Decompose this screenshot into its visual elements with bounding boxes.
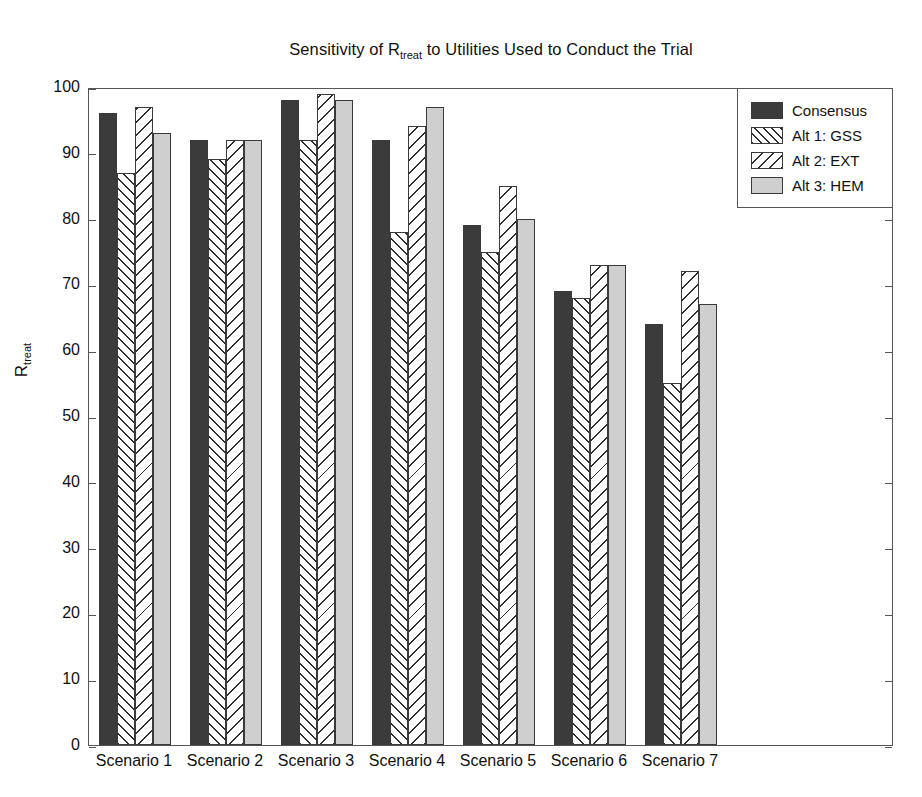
legend-item: Consensus	[738, 98, 892, 123]
bar-group	[463, 89, 535, 745]
legend-swatch	[751, 127, 783, 144]
bar	[281, 100, 299, 745]
bar	[299, 140, 317, 745]
x-tick-label: Scenario 5	[460, 752, 537, 770]
x-tick-label: Scenario 2	[187, 752, 264, 770]
y-tick-label: 30	[62, 539, 80, 557]
y-tick-label: 100	[53, 78, 80, 96]
legend-swatch	[751, 102, 783, 119]
y-tick-label: 50	[62, 407, 80, 425]
bar-group	[281, 89, 353, 745]
y-tick-label: 80	[62, 210, 80, 228]
bar	[590, 265, 608, 745]
bar	[572, 298, 590, 745]
bar	[372, 140, 390, 745]
legend-label: Alt 3: HEM	[792, 177, 864, 194]
chart-title: Sensitivity of Rtreat to Utilities Used …	[88, 40, 894, 59]
bar	[645, 324, 663, 745]
chart-title-part2: to Utilities Used to Conduct the Trial	[422, 40, 693, 58]
y-tick-label: 60	[62, 341, 80, 359]
y-tick-label: 0	[71, 736, 80, 754]
bar-group	[99, 89, 171, 745]
bar-group	[554, 89, 626, 745]
bar	[190, 140, 208, 745]
legend-label: Alt 1: GSS	[792, 127, 862, 144]
bar	[244, 140, 262, 745]
y-tick-label: 70	[62, 275, 80, 293]
bar	[663, 383, 681, 745]
y-axis-label-main: R	[12, 365, 31, 377]
y-tick-label: 20	[62, 604, 80, 622]
bar	[481, 252, 499, 746]
y-axis-label: Rtreat	[12, 300, 32, 420]
bar	[226, 140, 244, 745]
y-tick-mark-right	[885, 747, 892, 748]
bar	[99, 113, 117, 745]
legend-swatch	[751, 152, 783, 169]
bar	[135, 107, 153, 745]
bar	[426, 107, 444, 745]
bar	[499, 186, 517, 745]
bar-group	[372, 89, 444, 745]
y-tick-label: 10	[62, 670, 80, 688]
legend-item: Alt 1: GSS	[738, 123, 892, 148]
x-tick-label: Scenario 7	[642, 752, 719, 770]
x-tick-label: Scenario 3	[278, 752, 355, 770]
bar	[554, 291, 572, 745]
x-tick-label: Scenario 4	[369, 752, 446, 770]
x-tick-label: Scenario 1	[96, 752, 173, 770]
bar	[517, 219, 535, 745]
legend-swatch	[751, 177, 783, 194]
x-tick-label: Scenario 6	[551, 752, 628, 770]
bar	[208, 159, 226, 745]
bar	[463, 225, 481, 745]
legend-item: Alt 2: EXT	[738, 148, 892, 173]
y-tick-mark-left	[89, 747, 96, 748]
y-tick-label: 40	[62, 473, 80, 491]
legend-item: Alt 3: HEM	[738, 173, 892, 198]
bar	[408, 126, 426, 745]
chart-title-part1: Sensitivity of R	[289, 40, 400, 58]
y-tick-label: 90	[62, 144, 80, 162]
bar	[153, 133, 171, 745]
chart-title-subscript: treat	[400, 49, 422, 61]
bar	[608, 265, 626, 745]
bar	[390, 232, 408, 745]
chart-figure: Sensitivity of Rtreat to Utilities Used …	[0, 0, 922, 797]
bar-group	[645, 89, 717, 745]
legend-label: Alt 2: EXT	[792, 152, 860, 169]
legend-label: Consensus	[792, 102, 867, 119]
bar	[335, 100, 353, 745]
bar-group	[190, 89, 262, 745]
y-axis-label-subscript: treat	[21, 343, 33, 365]
bar	[681, 271, 699, 745]
bar	[317, 94, 335, 745]
legend: ConsensusAlt 1: GSSAlt 2: EXTAlt 3: HEM	[737, 88, 893, 208]
bar	[699, 304, 717, 745]
bar	[117, 173, 135, 745]
